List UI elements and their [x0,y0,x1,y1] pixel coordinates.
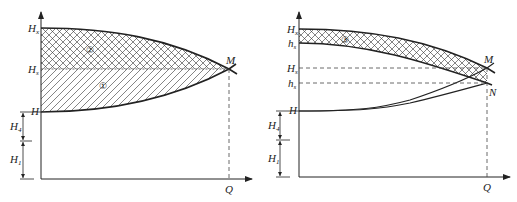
right-system-curve-lower [299,83,487,111]
left-label-m: M [225,54,236,66]
left-label-h: H [30,105,40,117]
left-region-1-label: ① [99,81,107,91]
left-label-h1: H1 [9,153,21,167]
right-label-h4: H4 [267,119,280,133]
right-label-h1: H1 [267,152,279,166]
right-diagram: Hx hs Hs hs H H4 H1 M N Q ③ [267,12,510,193]
right-label-h: H [288,104,298,116]
left-label-hs: Hs [27,63,39,77]
right-label-q: Q [483,181,491,193]
pump-characteristic-diagrams: Hx Hs H H4 H1 M Q ② ① Hx hs Hs [0,0,517,202]
right-label-m: M [483,53,494,65]
region-1-fill [41,69,229,112]
right-region-3-label: ③ [341,35,349,45]
left-label-q: Q [225,183,233,195]
right-label-hs-upper: hs [288,37,297,51]
right-label-hs: Hs [286,62,298,76]
right-label-n: N [488,86,497,98]
left-label-hx: Hx [27,22,40,36]
right-label-hx: Hx [286,23,299,37]
left-diagram: Hx Hs H H4 H1 M Q ② ① [9,12,252,195]
left-region-2-label: ② [86,45,94,55]
left-label-h4: H4 [9,120,22,134]
right-label-hs-lower: hs [288,77,297,91]
region-2-fill [41,28,229,69]
